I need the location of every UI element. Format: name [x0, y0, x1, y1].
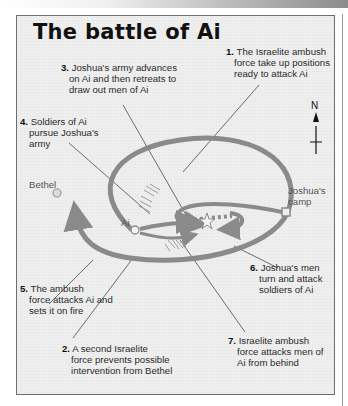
ai-label: Ai: [121, 217, 130, 228]
bethel-marker: [53, 189, 61, 197]
north-arrow-icon: [310, 112, 322, 154]
annotation-3: 3. Joshua's army advances on Ai and then…: [61, 62, 177, 95]
annotation-2: 2. A second Israelite force prevents pos…: [62, 343, 172, 376]
annotation-4: 4. Soldiers of Ai pursue Joshua's army: [20, 116, 99, 149]
ai-marker: [131, 226, 139, 234]
ambush-route: [76, 138, 291, 260]
ambush-entry-route: [92, 238, 120, 243]
ambush-attack-route: [140, 233, 190, 238]
joshua-camp-marker: [282, 208, 290, 216]
ai-sortie-route: [140, 223, 196, 229]
bethel-label: Bethel: [29, 179, 56, 190]
joshua-camp-label: Joshua's camp: [288, 185, 326, 207]
battle-star-icon: [199, 213, 215, 229]
annotation-7: 7. Israelite ambush force attacks men of…: [228, 335, 323, 368]
annotation-6: 6. Joshua's men turn and attack soldiers…: [250, 262, 322, 295]
annotation-1: 1. The Israelite ambush force take up po…: [226, 46, 330, 79]
compass-north-label: N: [311, 100, 318, 111]
annotation-5: 5. The ambush force attacks Ai and sets …: [20, 283, 113, 316]
